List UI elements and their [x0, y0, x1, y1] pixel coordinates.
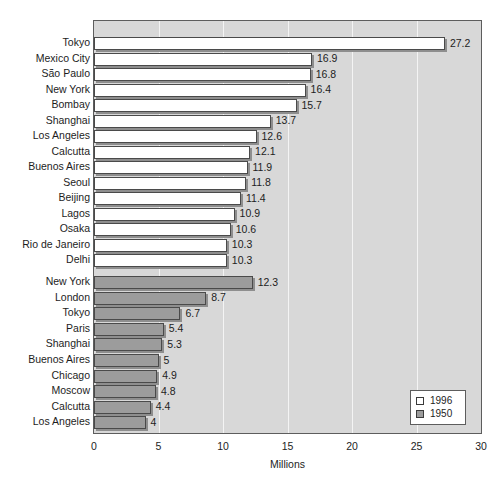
x-tick-label: 10: [203, 440, 243, 452]
x-tick-label: 5: [139, 440, 179, 452]
x-tick-label: 30: [461, 440, 494, 452]
bar-chart-figure: 1996 1950 TokyoMexico CitySão PauloNew Y…: [0, 0, 494, 482]
x-tick-label: 20: [332, 440, 372, 452]
x-tick-label: 15: [268, 440, 308, 452]
x-tick-label: 25: [397, 440, 437, 452]
x-axis-title: Millions: [93, 458, 482, 470]
x-tick-label: 0: [74, 440, 114, 452]
x-axis: 051015202530: [0, 0, 494, 482]
